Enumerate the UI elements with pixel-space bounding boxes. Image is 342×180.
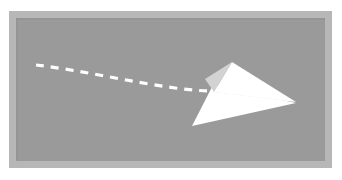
panel-inner-bevel-top (16, 18, 325, 20)
paper-plane-illustration: Paper Plane Flight Illustration White pa… (0, 0, 342, 180)
panel-interior (16, 18, 325, 161)
panel-inner-bevel-left (16, 18, 18, 161)
illustration-root: Paper Plane Flight Illustration White pa… (0, 0, 342, 180)
